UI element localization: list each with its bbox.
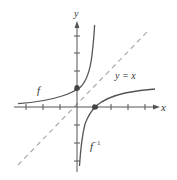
curve-f-inverse bbox=[80, 89, 156, 166]
identity-line bbox=[18, 32, 147, 165]
point-f-0-1 bbox=[74, 85, 79, 91]
curve-f-label: f bbox=[37, 84, 42, 96]
curve-f-inverse-label-sup: −1 bbox=[93, 139, 101, 147]
identity-label: y = x bbox=[114, 70, 136, 81]
curve-f-inverse-label: f−1 bbox=[90, 139, 101, 152]
curve-f bbox=[18, 25, 95, 104]
y-axis-label: y bbox=[73, 8, 79, 19]
x-axis-label: x bbox=[160, 101, 166, 113]
function-inverse-diagram: x y y = x f f−1 bbox=[0, 0, 177, 180]
x-axis-arrow-icon bbox=[153, 105, 160, 110]
x-axis bbox=[14, 104, 160, 110]
y-axis-arrow-icon bbox=[75, 21, 80, 28]
y-axis bbox=[74, 21, 80, 172]
point-finv-1-0 bbox=[92, 104, 98, 109]
